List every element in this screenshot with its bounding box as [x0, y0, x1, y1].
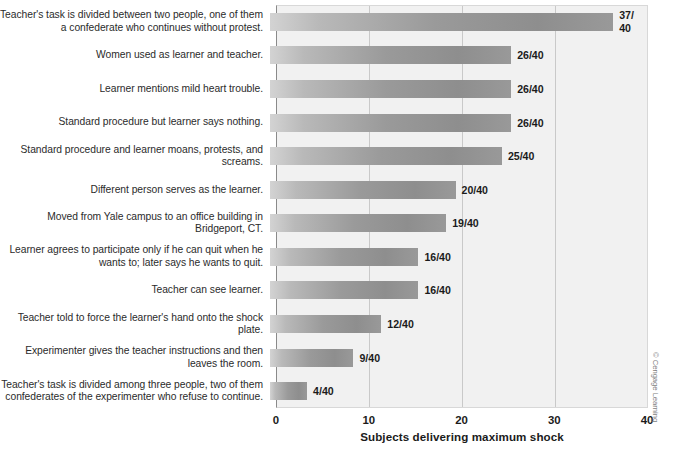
- x-axis-title: Subjects delivering maximum shock: [276, 430, 648, 443]
- x-tick-label: 20: [455, 414, 468, 426]
- bar-zone: 20/40: [270, 174, 672, 205]
- x-tick-label: 10: [362, 414, 375, 426]
- bar-category-label: Learner agrees to participate only if he…: [0, 244, 270, 269]
- figure-milgram-variations: Teacher's task is divided between two pe…: [0, 0, 679, 466]
- bar-value-label: 4/40: [313, 385, 334, 397]
- bar: [270, 315, 381, 333]
- bar-row: Standard procedure but learner says noth…: [0, 107, 679, 138]
- bar-row: Teacher can see learner.16/40: [0, 275, 679, 306]
- bar: [270, 382, 307, 400]
- bar-value-label: 16/40: [424, 251, 451, 263]
- bar: [270, 214, 446, 232]
- bar-value-label: 20/40: [462, 184, 489, 196]
- bar: [270, 281, 418, 299]
- bar-row: Teacher's task is divided between two pe…: [0, 6, 679, 37]
- bar-zone: 25/40: [270, 141, 672, 172]
- bar-value-label: 12/40: [387, 318, 414, 330]
- bar-category-label: Experimenter gives the teacher instructi…: [0, 345, 270, 370]
- bar: [270, 147, 502, 165]
- bar-category-label: Teacher can see learner.: [0, 284, 270, 296]
- bar-row: Learner mentions mild heart trouble.26/4…: [0, 73, 679, 104]
- bar-value-label: 26/40: [517, 49, 544, 61]
- copyright-credit: © Cengage Learning: [651, 352, 660, 422]
- bar-value-label: 25/40: [508, 150, 535, 162]
- x-tick-label: 30: [548, 414, 561, 426]
- bar-zone: 37/ 40: [270, 6, 672, 37]
- bar-category-label: Teacher's task is divided among three pe…: [0, 379, 270, 404]
- bar-value-label: 16/40: [424, 284, 451, 296]
- bar: [270, 181, 456, 199]
- bar-zone: 16/40: [270, 275, 672, 306]
- bar-value-label: 26/40: [517, 117, 544, 129]
- bar-rows: Teacher's task is divided between two pe…: [0, 5, 679, 408]
- bar-category-label: Different person serves as the learner.: [0, 184, 270, 196]
- bar: [270, 349, 353, 367]
- bar: [270, 13, 613, 31]
- bar: [270, 114, 511, 132]
- bar-category-label: Standard procedure and learner moans, pr…: [0, 144, 270, 169]
- bar-category-label: Teacher told to force the learner's hand…: [0, 312, 270, 337]
- bar-value-label: 26/40: [517, 83, 544, 95]
- bar-value-label: 9/40: [359, 352, 380, 364]
- bar-category-label: Learner mentions mild heart trouble.: [0, 83, 270, 95]
- bar-zone: 26/40: [270, 40, 672, 71]
- bar: [270, 46, 511, 64]
- bar-row: Teacher told to force the learner's hand…: [0, 309, 679, 340]
- bar-category-label: Teacher's task is divided between two pe…: [0, 9, 270, 34]
- bar-row: Moved from Yale campus to an office buil…: [0, 208, 679, 239]
- bar-zone: 16/40: [270, 241, 672, 272]
- bar-value-label: 37/ 40: [619, 9, 641, 35]
- x-tick-label: 0: [273, 414, 279, 426]
- bar-category-label: Moved from Yale campus to an office buil…: [0, 211, 270, 236]
- bar-category-label: Women used as learner and teacher.: [0, 49, 270, 61]
- x-axis: 010203040: [276, 408, 648, 409]
- bar-row: Teacher's task is divided among three pe…: [0, 376, 679, 407]
- bar-zone: 26/40: [270, 107, 672, 138]
- bar-row: Standard procedure and learner moans, pr…: [0, 141, 679, 172]
- bar-zone: 26/40: [270, 73, 672, 104]
- bar: [270, 80, 511, 98]
- bar-zone: 9/40: [270, 342, 672, 373]
- bar-value-label: 19/40: [452, 217, 479, 229]
- bar-zone: 4/40: [270, 376, 672, 407]
- bar-zone: 12/40: [270, 309, 672, 340]
- bar-row: Learner agrees to participate only if he…: [0, 241, 679, 272]
- bar-row: Women used as learner and teacher.26/40: [0, 40, 679, 71]
- bar-category-label: Standard procedure but learner says noth…: [0, 116, 270, 128]
- bar: [270, 248, 418, 266]
- bar-row: Different person serves as the learner.2…: [0, 174, 679, 205]
- bar-row: Experimenter gives the teacher instructi…: [0, 342, 679, 373]
- bar-zone: 19/40: [270, 208, 672, 239]
